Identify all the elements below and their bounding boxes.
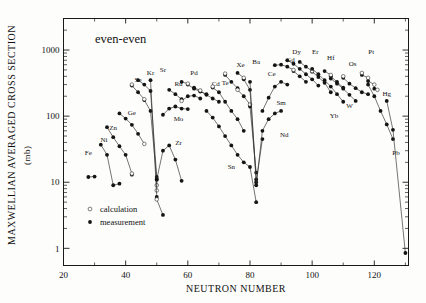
element-label: Xe — [237, 61, 245, 69]
element-label: Pb — [392, 149, 400, 157]
measurement-point — [180, 80, 184, 84]
calculation-point — [242, 76, 246, 80]
chart-title: even-even — [95, 32, 147, 46]
measurement-point — [118, 144, 122, 148]
element-label: Sm — [276, 99, 286, 107]
measurement-point — [155, 178, 159, 182]
calculation-point — [366, 76, 370, 80]
measurement-point — [267, 117, 271, 121]
measurement-point — [248, 80, 252, 84]
measurement-point — [217, 90, 221, 94]
measurement-point — [285, 83, 289, 87]
element-label: Dy — [292, 48, 301, 56]
measurement-point — [242, 94, 246, 98]
x-tick-label: 100 — [305, 270, 319, 280]
isotope-chain: Mo — [161, 105, 190, 123]
measurement-point — [279, 80, 283, 84]
measurement-point — [149, 89, 153, 93]
measurement-point — [273, 63, 277, 67]
isotope-chain: Pb — [385, 99, 407, 255]
element-label: Pd — [190, 69, 198, 77]
element-label: Sn — [228, 163, 236, 171]
measurement-point — [136, 78, 140, 82]
measurement-point — [149, 78, 153, 82]
measurement-point — [261, 129, 265, 133]
measurement-point — [366, 83, 370, 87]
measurement-point — [173, 158, 177, 162]
measurement-point — [385, 123, 389, 127]
isotope-chain: Sn — [205, 109, 259, 204]
measurement-point — [323, 78, 327, 82]
measurement-point — [136, 132, 140, 136]
element-label: Ce — [268, 70, 276, 78]
measurement-point — [167, 144, 171, 148]
calculation-point — [223, 72, 227, 76]
measurement-point — [385, 99, 389, 103]
measurement-point — [254, 183, 258, 187]
element-label: Ge — [128, 109, 136, 117]
calculation-point — [143, 142, 147, 146]
measurement-point — [229, 80, 233, 84]
chain-line — [275, 65, 306, 82]
measurement-point — [329, 85, 333, 89]
isotope-chain: Zn — [105, 124, 134, 177]
measurement-point — [261, 109, 265, 113]
measurement-point — [93, 175, 97, 179]
measurement-point — [105, 153, 109, 157]
chain-line — [225, 74, 256, 173]
measurement-point — [298, 74, 302, 78]
calculation-point — [130, 172, 134, 176]
measurement-point — [223, 134, 227, 138]
measurement-point — [229, 144, 233, 148]
measurement-point — [273, 85, 277, 89]
isotope-chain: Sm — [261, 80, 290, 113]
chain-line — [387, 101, 406, 253]
isotope-chain: Gd — [273, 56, 308, 84]
element-label: Sr — [160, 66, 167, 74]
x-tick-label: 120 — [368, 270, 382, 280]
element-label: Zn — [109, 124, 117, 132]
measurement-point — [254, 200, 258, 204]
element-label: Ni — [100, 136, 107, 144]
measurement-point — [229, 109, 233, 113]
measurement-point — [161, 149, 165, 153]
measurement-point — [316, 72, 320, 76]
measurement-point — [279, 109, 283, 113]
element-label: Zr — [175, 139, 182, 147]
isotope-chain: Hg — [366, 83, 395, 141]
x-tick-label: 20 — [59, 270, 69, 280]
chain-line — [256, 111, 281, 185]
measurement-point — [242, 160, 246, 164]
measurement-point — [310, 67, 314, 71]
measurement-point — [142, 83, 146, 87]
calculation-point — [155, 198, 159, 202]
measurement-point — [192, 94, 196, 98]
measurement-point — [242, 129, 246, 133]
y-tick-label: 10 — [51, 177, 61, 187]
chain-line — [107, 127, 132, 175]
measurement-point — [310, 77, 314, 81]
chain-line — [238, 73, 257, 180]
measurement-point — [173, 92, 177, 96]
calculation-point — [211, 85, 215, 89]
element-label: W — [346, 102, 353, 110]
calculation-point — [373, 83, 377, 87]
measurement-point — [180, 107, 184, 111]
chain-line — [206, 111, 256, 202]
calculation-point — [360, 71, 364, 75]
chain-line — [151, 80, 163, 215]
measurement-point — [304, 65, 308, 69]
y-tick-label: 1000 — [42, 45, 61, 55]
measurement-point — [360, 90, 364, 94]
isotope-chain: Fe — [85, 149, 97, 179]
measurement-point — [285, 65, 289, 69]
x-tick-label: 40 — [121, 270, 131, 280]
figure-root: MAXWELLIAN AVERAGED CROSS SECTION (mb) N… — [0, 0, 426, 303]
measurement-point — [236, 71, 240, 75]
calculation-point — [341, 75, 345, 79]
isotope-chain: Hf — [323, 54, 345, 89]
measurement-point — [329, 90, 333, 94]
measurement-point — [118, 112, 122, 116]
measurement-point — [348, 93, 352, 97]
measurement-point — [316, 84, 320, 88]
